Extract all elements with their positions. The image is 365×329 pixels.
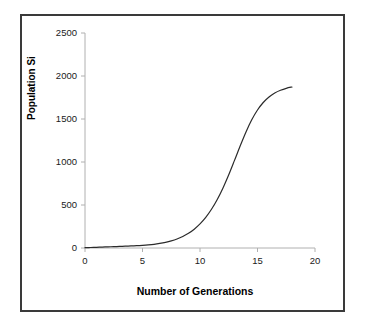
y-axis-title: Population Si [26,88,37,104]
x-tick-label: 10 [187,256,213,266]
y-tick-label: 2000 [43,71,77,81]
population-curve [85,87,292,248]
x-tick-label: 15 [245,256,271,266]
y-tick-label: 0 [43,243,77,253]
axis-lines [85,33,315,248]
x-axis-title: Number of Generations [85,285,305,297]
y-tick-label: 1500 [43,114,77,124]
x-tick-label: 5 [130,256,156,266]
y-tick-label: 2500 [43,28,77,38]
x-tick-label: 20 [302,256,328,266]
y-axis-title-text: Population Si [26,104,37,120]
y-tick-label: 1000 [43,157,77,167]
y-tick-label: 500 [43,200,77,210]
tick-marks [81,33,315,252]
x-tick-label: 0 [72,256,98,266]
